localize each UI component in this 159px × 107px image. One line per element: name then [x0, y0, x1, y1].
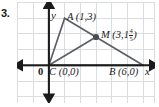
point-label-b: B (6,0) — [109, 66, 138, 77]
point-label-m: M (3,145) — [101, 28, 137, 42]
y-axis-label: y — [51, 10, 56, 21]
point-label-c: C (0,0) — [49, 66, 79, 77]
point-label-a: A (1,3) — [67, 11, 96, 22]
point-label-c-text: C (0,0) — [49, 66, 79, 77]
segment-c-m — [49, 37, 96, 65]
coordinate-graph: A (1,3) M (3,145) 0 C (0,0) B (6,0) y x — [17, 2, 155, 103]
point-label-m-prefix: M (3,1 — [101, 29, 129, 40]
figure-container: 3. — [0, 0, 159, 107]
x-axis-label: x — [145, 66, 150, 77]
point-label-a-text: A (1,3) — [67, 11, 96, 22]
problem-number-label: 3. — [1, 8, 10, 19]
point-label-b-text: B (6,0) — [109, 66, 138, 77]
point-label-m-suffix: ) — [133, 29, 137, 40]
origin-label: 0 — [38, 66, 43, 77]
point-marker-m — [93, 34, 99, 40]
